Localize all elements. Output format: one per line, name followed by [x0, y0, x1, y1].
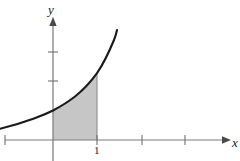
plot-canvas — [0, 0, 240, 161]
x-tick-label-1: 1 — [94, 145, 100, 156]
x-axis-label: x — [232, 136, 238, 149]
y-axis-arrowhead — [49, 17, 56, 26]
x-axis-arrowhead — [222, 136, 231, 144]
y-axis-label: y — [48, 3, 54, 16]
math-graph-figure: y x 1 — [0, 0, 240, 161]
